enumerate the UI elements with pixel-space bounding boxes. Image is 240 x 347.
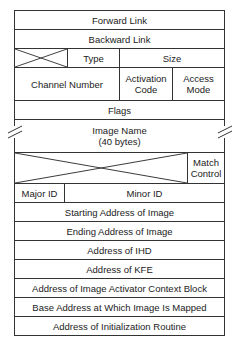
flags-field: Flags <box>14 100 225 120</box>
size-label: Size <box>163 53 181 64</box>
match-control-label-line2: Control <box>191 168 222 179</box>
unused-cross-icon <box>15 49 67 67</box>
ending-address-field: Ending Address of Image <box>14 221 225 241</box>
address-kfe-label: Address of KFE <box>86 264 153 275</box>
backward-link-label: Backward Link <box>89 34 151 45</box>
major-id-field: Major ID <box>14 183 65 203</box>
image-name-label-line2: (40 bytes) <box>98 136 140 147</box>
base-address-label: Base Address at Which Image Is Mapped <box>32 302 206 313</box>
init-routine-label: Address of Initialization Routine <box>53 321 186 332</box>
starting-address-label: Starting Address of Image <box>65 207 174 218</box>
backward-link-field: Backward Link <box>14 29 225 49</box>
channel-number-label: Channel Number <box>31 79 103 90</box>
minor-id-label: Minor ID <box>127 188 163 199</box>
activation-code-label-line1: Activation <box>125 73 166 84</box>
minor-id-field: Minor ID <box>64 183 225 203</box>
image-control-block-diagram: Forward Link Backward Link Type Size Cha… <box>14 10 225 335</box>
init-routine-field: Address of Initialization Routine <box>14 316 225 336</box>
access-mode-label-line2: Mode <box>187 84 211 95</box>
access-mode-label-line1: Access <box>183 73 214 84</box>
activation-code-field: Activation Code <box>119 67 173 101</box>
image-name-field: Image Name (40 bytes) <box>14 119 225 153</box>
unused-cross-icon <box>15 153 187 183</box>
image-name-label-line1: Image Name <box>92 125 146 136</box>
starting-address-field: Starting Address of Image <box>14 202 225 222</box>
forward-link-field: Forward Link <box>14 10 225 30</box>
base-address-field: Base Address at Which Image Is Mapped <box>14 297 225 317</box>
match-control-field: Match Control <box>187 152 225 184</box>
address-kfe-field: Address of KFE <box>14 259 225 279</box>
forward-link-label: Forward Link <box>92 15 147 26</box>
size-field: Size <box>119 48 225 68</box>
access-mode-field: Access Mode <box>172 67 225 101</box>
address-activator-label: Address of Image Activator Context Block <box>32 283 207 294</box>
address-ihd-label: Address of IHD <box>87 245 151 256</box>
address-ihd-field: Address of IHD <box>14 240 225 260</box>
reserved-field-1 <box>14 48 68 68</box>
reserved-field-2 <box>14 152 188 184</box>
address-activator-field: Address of Image Activator Context Block <box>14 278 225 298</box>
left-break-mark-icon <box>6 124 24 140</box>
activation-code-label-line2: Code <box>135 84 158 95</box>
ending-address-label: Ending Address of Image <box>66 226 172 237</box>
channel-number-field: Channel Number <box>14 67 120 101</box>
major-id-label: Major ID <box>22 188 58 199</box>
type-field: Type <box>67 48 120 68</box>
right-break-mark-icon <box>216 124 234 140</box>
match-control-label-line1: Match <box>193 157 219 168</box>
type-label: Type <box>83 53 104 64</box>
flags-label: Flags <box>108 105 131 116</box>
